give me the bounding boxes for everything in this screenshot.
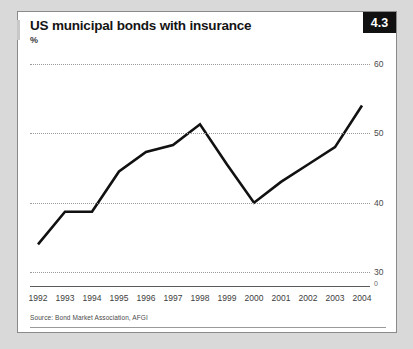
plot-area: 304050600	[30, 50, 370, 286]
chart-unit-label: %	[30, 35, 38, 45]
figure-number-badge: 4.3	[363, 12, 396, 33]
x-axis-tick-2003: 2003	[326, 293, 345, 303]
gridline-40	[30, 203, 370, 204]
data-line	[38, 106, 362, 245]
y-axis-tick-60: 60	[374, 59, 383, 69]
line-series	[30, 50, 370, 286]
x-axis-tick-1997: 1997	[164, 293, 183, 303]
x-axis-tick-2002: 2002	[299, 293, 318, 303]
x-axis-tick-1993: 1993	[56, 293, 75, 303]
x-axis-line	[30, 286, 370, 287]
x-axis-labels: 1992199319941995199619971998199920002001…	[30, 293, 370, 307]
source-note: Source: Bond Market Association, AFGI	[30, 314, 148, 321]
gridline-60	[30, 64, 370, 65]
x-axis-tick-1998: 1998	[191, 293, 210, 303]
x-axis-tick-1995: 1995	[110, 293, 129, 303]
page-background: US municipal bonds with insurance % 4.3 …	[0, 0, 413, 349]
figure-header: US municipal bonds with insurance % 4.3	[18, 12, 396, 54]
y-axis-tick-zero: 0	[374, 280, 378, 287]
chart-figure: US municipal bonds with insurance % 4.3 …	[17, 11, 397, 333]
x-axis-tick-1996: 1996	[137, 293, 156, 303]
x-axis-tick-2004: 2004	[353, 293, 372, 303]
x-axis-tick-1994: 1994	[83, 293, 102, 303]
gridline-50	[30, 133, 370, 134]
y-axis-tick-50: 50	[374, 128, 383, 138]
gridline-30	[30, 272, 370, 273]
y-axis-tick-40: 40	[374, 198, 383, 208]
y-axis-tick-30: 30	[374, 267, 383, 277]
x-axis-tick-2000: 2000	[245, 293, 264, 303]
x-axis-tick-1992: 1992	[29, 293, 48, 303]
footer-divider	[30, 327, 386, 328]
x-axis-tick-1999: 1999	[218, 293, 237, 303]
x-axis-tick-2001: 2001	[272, 293, 291, 303]
page-title: US municipal bonds with insurance	[30, 18, 251, 33]
